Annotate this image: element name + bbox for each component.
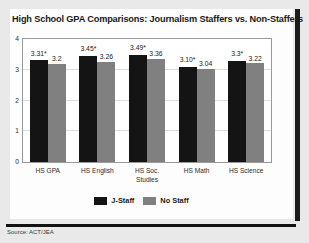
x-axis-category-label: HS Soc.Studies xyxy=(122,166,172,184)
bar-value-label: 3.45* xyxy=(80,45,96,52)
y-axis: 01234 xyxy=(10,38,21,163)
bar-value-label: 3.3* xyxy=(231,50,243,57)
bar-group: 3.45*3.26 xyxy=(73,39,123,162)
x-axis-category-label: HS English xyxy=(73,166,123,184)
bar-group: 3.31*3.2 xyxy=(23,39,73,162)
bar-group: 3.3*3.22 xyxy=(221,39,271,162)
legend-swatch-icon xyxy=(143,197,156,205)
bar-value-label: 3.2 xyxy=(52,55,61,62)
legend-item: J-Staff xyxy=(94,196,134,205)
bar-no-staff: 3.26 xyxy=(97,62,115,162)
bar-value-label: 3.31* xyxy=(31,50,47,57)
legend-label: J-Staff xyxy=(111,196,134,205)
legend-item: No Staff xyxy=(143,196,188,205)
bar-no-staff: 3.2 xyxy=(48,64,66,162)
scanned-page-background: High School GPA Comparisons: Journalism … xyxy=(0,0,309,243)
bar-no-staff: 3.22 xyxy=(246,63,264,162)
y-axis-tick-1: 1 xyxy=(15,127,19,134)
source-divider xyxy=(6,224,296,227)
bar-j-staff: 3.10* xyxy=(179,67,197,162)
bar-value-label: 3.10* xyxy=(180,56,196,63)
legend-label: No Staff xyxy=(160,196,188,205)
bar-j-staff: 3.45* xyxy=(79,56,97,162)
bar-j-staff: 3.3* xyxy=(228,61,246,162)
bar-value-label: 3.04 xyxy=(199,60,212,67)
x-axis-labels: HS GPAHS EnglishHS Soc.StudiesHS MathHS … xyxy=(23,166,271,184)
x-axis-category-label: HS Science xyxy=(221,166,271,184)
y-axis-tick-2: 2 xyxy=(15,96,19,103)
bar-group: 3.10*3.04 xyxy=(172,39,222,162)
y-axis-tick-4: 4 xyxy=(15,35,19,42)
bar-no-staff: 3.04 xyxy=(197,69,215,162)
x-axis-category-label: HS Math xyxy=(172,166,222,184)
chart-legend: J-StaffNo Staff xyxy=(0,196,283,205)
x-axis-category-label: HS GPA xyxy=(23,166,73,184)
source-caption: Source: ACT/JEA xyxy=(7,229,54,235)
bar-value-label: 3.36 xyxy=(149,50,162,57)
scan-spine-artifact xyxy=(295,9,300,221)
y-axis-tick-0: 0 xyxy=(15,158,19,165)
legend-swatch-icon xyxy=(94,197,107,205)
bar-value-label: 3.22 xyxy=(249,55,262,62)
bar-no-staff: 3.36 xyxy=(147,59,165,162)
chart-title: High School GPA Comparisons: Journalism … xyxy=(12,14,274,24)
bar-groups: 3.31*3.23.45*3.263.49*3.363.10*3.043.3*3… xyxy=(23,39,271,162)
y-axis-tick-3: 3 xyxy=(15,65,19,72)
bar-j-staff: 3.49* xyxy=(129,55,147,162)
bar-value-label: 3.26 xyxy=(100,53,113,60)
bar-group: 3.49*3.36 xyxy=(122,39,172,162)
bar-value-label: 3.49* xyxy=(130,44,146,51)
bar-j-staff: 3.31* xyxy=(30,60,48,162)
